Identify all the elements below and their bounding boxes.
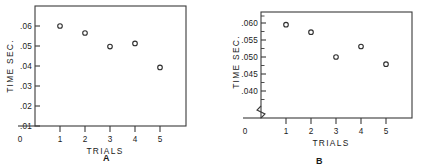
panel-b: .060 .055 .050 .045 .040 0 1: [213, 0, 426, 164]
data-point: [83, 31, 88, 36]
data-point: [284, 22, 289, 27]
panel-a-data-series: [58, 24, 163, 70]
panel-a-xtick-label: 3: [108, 135, 113, 144]
panel-b-xtick-label: 1: [284, 127, 289, 136]
panel-a-yaxis-title: TIME SEC.: [5, 39, 15, 93]
panel-b-ytick-label: .055: [241, 36, 258, 45]
panel-a-ytick-label: .03: [20, 82, 32, 91]
panel-a-y-ticklabels: .06 .05 .04 .03 .02 .01: [20, 22, 32, 131]
panel-b-y-ticklabels: .060 .055 .050 .045 .040: [241, 19, 258, 96]
data-point: [133, 41, 138, 46]
panel-b-data-series: [284, 22, 389, 66]
panel-b-xtick-label: 2: [309, 127, 314, 136]
data-point: [309, 30, 314, 35]
panel-b-xtick-label: 3: [334, 127, 339, 136]
panel-a-plot: .06 .05 .04 .03 .02 .01 0 1 2: [0, 0, 213, 164]
figure-two-panel-scatter: .06 .05 .04 .03 .02 .01 0 1 2: [0, 0, 426, 164]
panel-a-xtick-label: 1: [58, 135, 63, 144]
panel-a-ytick-label: .06: [20, 22, 32, 31]
data-point: [384, 62, 389, 67]
data-point: [158, 65, 163, 70]
panel-b-ytick-label: .045: [241, 70, 258, 79]
panel-a-x-ticks: [60, 126, 160, 132]
data-point: [334, 55, 339, 60]
panel-a-axes-frame: [35, 6, 186, 126]
panel-a-ytick-label: .02: [20, 102, 32, 111]
panel-a-ytick-label: .05: [20, 42, 32, 51]
panel-a-x-ticklabels: 0 1 2 3 4 5: [18, 135, 163, 144]
panel-b-yaxis-title: TIME SEC.: [231, 35, 241, 89]
data-point: [58, 24, 63, 29]
panel-a-xtick-label: 5: [158, 135, 163, 144]
panel-a-caption: A: [103, 153, 110, 163]
panel-a: .06 .05 .04 .03 .02 .01 0 1 2: [0, 0, 213, 164]
panel-b-plot: .060 .055 .050 .045 .040 0 1: [213, 0, 426, 164]
panel-a-xtick-label: 0: [18, 135, 23, 144]
data-point: [108, 44, 113, 49]
panel-b-ytick-label: .040: [241, 87, 258, 96]
panel-b-xtick-label: 4: [359, 127, 364, 136]
panel-b-ytick-label: .050: [241, 53, 258, 62]
panel-b-x-ticks: [286, 118, 386, 124]
panel-b-xtick-label: 5: [384, 127, 389, 136]
panel-b-x-ticklabels: 0 1 2 3 4 5: [243, 127, 389, 136]
panel-b-xaxis-title: TRIALS: [312, 138, 349, 148]
panel-a-xtick-label: 2: [83, 135, 88, 144]
panel-a-ytick-label: .04: [20, 62, 32, 71]
panel-b-xtick-label: 0: [243, 127, 248, 136]
panel-b-ytick-label: .060: [241, 19, 258, 28]
panel-a-xtick-label: 4: [133, 135, 138, 144]
panel-a-y-ticks: [35, 26, 40, 126]
panel-b-axes-frame: [261, 12, 412, 118]
data-point: [359, 44, 364, 49]
panel-b-caption: B: [316, 156, 323, 164]
panel-b-y-ticks: [261, 23, 266, 91]
